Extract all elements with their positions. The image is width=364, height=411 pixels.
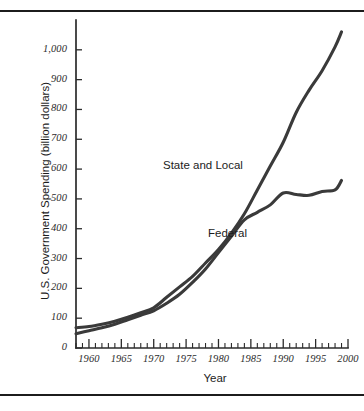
y-tick-label: 500 xyxy=(8,192,67,203)
figure-container: 01002003004005006007008009001,000 196019… xyxy=(0,0,364,411)
axes-group xyxy=(76,20,348,348)
series-group xyxy=(76,32,342,334)
y-tick-label: 0 xyxy=(8,341,67,352)
y-tick-label: 1,000 xyxy=(8,43,67,54)
x-tick-label: 2000 xyxy=(328,353,364,364)
y-tick-label: 400 xyxy=(8,222,67,233)
y-tick-label: 700 xyxy=(8,132,67,143)
y-tick-label: 100 xyxy=(8,311,67,322)
series-path-federal xyxy=(76,180,342,333)
series-path-state-and-local xyxy=(76,32,342,328)
y-tick-label: 600 xyxy=(8,162,67,173)
series-label-federal: Federal xyxy=(208,227,247,239)
y-axis-title: U.S. Government Spending (billion dollar… xyxy=(39,66,51,316)
x-axis-title: Year xyxy=(75,372,355,384)
y-tick-label: 900 xyxy=(8,73,67,84)
y-tick-label: 800 xyxy=(8,102,67,113)
y-tick-label: 300 xyxy=(8,252,67,263)
y-tick-label: 200 xyxy=(8,281,67,292)
series-label-state-and-local: State and Local xyxy=(163,159,243,171)
